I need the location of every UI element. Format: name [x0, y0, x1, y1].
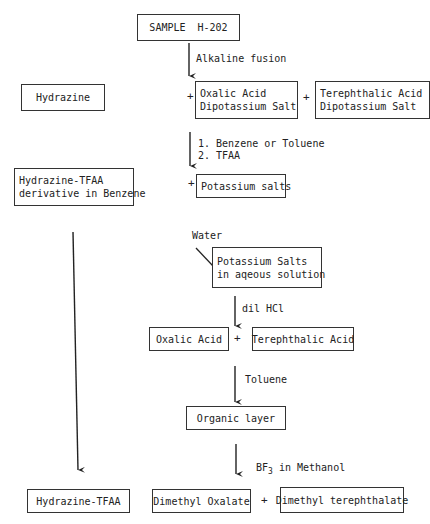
- sample-box: SAMPLE H-202: [137, 14, 240, 41]
- plus-sign: +: [261, 495, 268, 507]
- potassium-salts-box: Potassium salts: [196, 174, 286, 198]
- arrow-water: [196, 248, 213, 266]
- sample-label: SAMPLE H-202: [149, 21, 227, 34]
- alkaline-fusion-label: Alkaline fusion: [196, 53, 286, 65]
- hydrazine-tfaa-derivative-box: Hydrazine-TFAA derivative in Benzene: [14, 168, 134, 206]
- terephthalic-acid-box: Terephthalic Acid: [252, 327, 354, 351]
- plus-sign: +: [188, 178, 195, 190]
- arrow-hydrazine-tfaa: [73, 232, 78, 470]
- plus-sign: +: [187, 91, 194, 103]
- terephthalic-salt-box: Terephthalic Acid Dipotassium Salt: [315, 81, 430, 119]
- water-label: Water: [192, 230, 222, 242]
- oxalic-salt-box: Oxalic Acid Dipotassium Salt: [195, 81, 298, 119]
- oxalic-acid-box: Oxalic Acid: [149, 327, 229, 351]
- potassium-salts-aqueous-box: Potassium Salts in aqeous solution: [212, 247, 322, 288]
- dimethyl-terephthalate-box: Dimethyl terephthalate: [280, 487, 404, 513]
- hydrazine-box: Hydrazine: [21, 84, 105, 111]
- dil-hcl-label: dil HCl: [242, 303, 284, 315]
- bf3-methanol-label: BF3 in Methanol: [244, 450, 345, 478]
- plus-sign: +: [303, 92, 310, 104]
- dimethyl-oxalate-box: Dimethyl Oxalate: [152, 489, 251, 513]
- solvents-label: 1. Benzene or Toluene 2. TFAA: [198, 138, 324, 162]
- plus-sign: +: [234, 333, 241, 345]
- hydrazine-tfaa-box: Hydrazine-TFAA: [27, 489, 130, 513]
- organic-layer-box: Organic layer: [186, 406, 286, 430]
- toluene-label: Toluene: [245, 374, 287, 386]
